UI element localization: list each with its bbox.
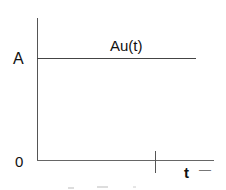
y-label-zero: 0	[15, 154, 23, 169]
x-axis-arrow: —	[199, 164, 211, 176]
curve-label: Au(t)	[110, 38, 143, 53]
y-label-a: A	[13, 51, 24, 67]
step-function-plot	[0, 0, 226, 190]
x-axis-label: t	[184, 165, 189, 180]
